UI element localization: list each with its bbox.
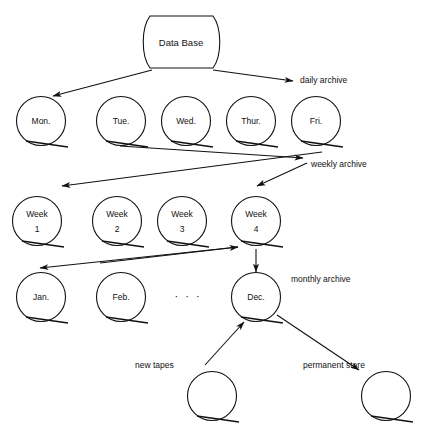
tape-label: Fri. [310,116,322,126]
tape-thur: Thur. [227,97,279,148]
tape-label: Wed. [176,116,196,126]
monthly-archive-label: monthly archive [291,274,351,284]
tape-week-1: Week 1 [13,197,65,248]
connector-monthly-to-week4 [100,247,238,263]
tape-circle [362,372,411,421]
tape-new [188,372,240,423]
tape-week-3: Week 3 [158,197,210,248]
tape-label-line2: 1 [35,224,40,234]
tape-label: Thur. [241,116,260,126]
tape-feb: Feb. [97,273,149,324]
tape-label-line2: 2 [115,224,120,234]
tape-circle [188,372,237,421]
connector-new-tapes-to-dec [205,322,244,365]
tape-label-line2: 4 [254,224,259,234]
tape-label: Mon. [32,116,51,126]
database-node: Data Base [143,16,220,68]
tape-label-line1: Week [171,209,193,219]
tape-circle [158,197,207,246]
diagram-canvas: Data Base daily archive Mon. Tue. Wed. [0,0,427,428]
tape-week-2: Week 2 [93,197,145,248]
tape-dec: Dec. [232,273,284,324]
tape-week-4: Week 4 [232,197,284,248]
tape-label: Feb. [112,292,129,302]
tape-label-line1: Week [26,209,48,219]
tape-mon: Mon. [17,97,69,148]
tape-permanent [362,372,414,423]
permanent-store-label: permanent store [303,360,365,370]
tape-label-line2: 3 [180,224,185,234]
connector-db-to-monday [53,70,152,96]
tape-circle [13,197,62,246]
connector-weekly-archive-to-week4 [257,163,307,186]
tape-label-line1: Week [106,209,128,219]
monthly-ellipsis: · · · [174,290,201,302]
tape-label: Jan. [33,292,49,302]
database-label: Data Base [159,37,203,48]
connector-fri-to-week1 [62,152,322,186]
daily-archive-label: daily archive [300,75,348,85]
tape-jan: Jan. [17,273,69,324]
tape-circle [232,197,281,246]
connector-daily-to-weekly-archive [120,146,303,158]
weekly-archive-label: weekly archive [310,159,367,169]
tape-label: Tue. [113,116,130,126]
tape-circle [93,197,142,246]
tape-fri: Fri. [292,97,344,148]
tape-wed: Wed. [162,97,214,148]
tape-label: Dec. [247,292,264,302]
backup-rotation-diagram: Data Base daily archive Mon. Tue. Wed. [0,0,427,428]
connector-db-to-daily-archive [213,70,293,81]
new-tapes-label: new tapes [135,360,174,370]
tape-label-line1: Week [245,209,267,219]
tape-tue: Tue. [97,97,149,148]
